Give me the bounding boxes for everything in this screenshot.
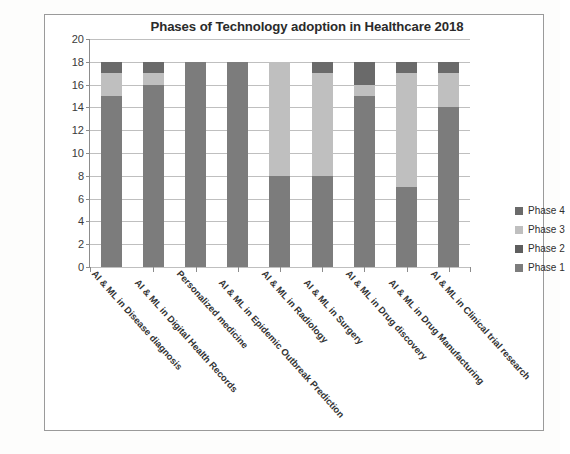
chart-frame: Phases of Technology adoption in Healthc… [44, 14, 544, 431]
legend-label: Phase 2 [528, 243, 565, 254]
bar-segment[interactable] [101, 62, 122, 73]
y-axis-tick-label: 16 [72, 79, 84, 91]
bar-segment[interactable] [438, 62, 459, 73]
legend-label: Phase 3 [528, 224, 565, 235]
legend-swatch-icon [515, 207, 523, 215]
y-axis-tick-label: 10 [72, 147, 84, 159]
legend-item[interactable]: Phase 2 [515, 239, 570, 258]
stacked-bar[interactable] [101, 62, 122, 267]
bar-segment[interactable] [101, 73, 122, 96]
bar-segment[interactable] [269, 176, 290, 267]
bar-segment[interactable] [312, 176, 333, 267]
stacked-bar[interactable] [354, 62, 375, 267]
bar-segment[interactable] [312, 62, 333, 73]
legend-label: Phase 1 [528, 262, 565, 273]
bar-segment[interactable] [354, 62, 375, 85]
legend-swatch-icon [515, 264, 523, 272]
x-axis-tick-mark [470, 267, 471, 272]
bar-slot[interactable] [301, 39, 343, 267]
bar-slot[interactable] [90, 39, 132, 267]
stacked-bar[interactable] [143, 62, 164, 267]
bar-segment[interactable] [143, 62, 164, 73]
bar-segment[interactable] [396, 187, 417, 267]
bar-slot[interactable] [259, 39, 301, 267]
stacked-bar[interactable] [227, 62, 248, 267]
bar-segment[interactable] [396, 73, 417, 187]
x-axis-category-labels: AI & ML in Disease diagnosisAI & ML in D… [89, 268, 470, 443]
stacked-bar[interactable] [269, 62, 290, 267]
legend-item[interactable]: Phase 4 [515, 201, 570, 220]
y-axis-tick-label: 0 [78, 261, 84, 273]
bar-segment[interactable] [312, 73, 333, 176]
plot-area: 20181614121086420 [89, 39, 470, 268]
bar-segment[interactable] [354, 96, 375, 267]
chart-title: Phases of Technology adoption in Healthc… [107, 19, 507, 34]
legend-swatch-icon [515, 245, 523, 253]
bar-segment[interactable] [269, 62, 290, 176]
x-axis-tick-mark [407, 267, 408, 272]
y-axis-tick-label: 8 [78, 170, 84, 182]
bar-slot[interactable] [343, 39, 385, 267]
x-axis-tick-mark [322, 267, 323, 272]
bar-segment[interactable] [396, 62, 417, 73]
y-axis-tick-label: 12 [72, 124, 84, 136]
legend-label: Phase 4 [528, 205, 565, 216]
bar-segment[interactable] [143, 73, 164, 84]
x-axis-tick-mark [449, 267, 450, 272]
y-axis-tick-label: 4 [78, 215, 84, 227]
bar-segment[interactable] [101, 96, 122, 267]
bar-segment[interactable] [227, 62, 248, 267]
bar-segment[interactable] [143, 85, 164, 267]
x-axis-tick-mark [364, 267, 365, 272]
x-axis-tick-mark [238, 267, 239, 272]
stacked-bar[interactable] [185, 62, 206, 267]
legend-item[interactable]: Phase 1 [515, 258, 570, 277]
x-axis-tick-mark [196, 267, 197, 272]
x-axis-tick-mark [280, 267, 281, 272]
bar-segment[interactable] [438, 107, 459, 267]
stacked-bar[interactable] [396, 62, 417, 267]
bar-slot[interactable] [428, 39, 470, 267]
x-axis-category-label: AI & ML in Clinical trial research [429, 268, 533, 382]
bar-slot[interactable] [386, 39, 428, 267]
x-axis-tick-mark [153, 267, 154, 272]
chart-legend: Phase 4Phase 3Phase 2Phase 1 [515, 201, 570, 277]
stacked-bar[interactable] [438, 62, 459, 267]
bar-slot[interactable] [217, 39, 259, 267]
bar-slot[interactable] [132, 39, 174, 267]
legend-item[interactable]: Phase 3 [515, 220, 570, 239]
bar-segment[interactable] [438, 73, 459, 107]
legend-swatch-icon [515, 226, 523, 234]
y-axis-tick-label: 14 [72, 101, 84, 113]
bar-segment[interactable] [185, 62, 206, 267]
y-axis-tick-label: 2 [78, 238, 84, 250]
bar-segment[interactable] [354, 85, 375, 96]
bar-series-group [90, 39, 470, 267]
bar-slot[interactable] [174, 39, 216, 267]
y-axis-tick-label: 20 [72, 33, 84, 45]
y-axis-tick-label: 6 [78, 193, 84, 205]
y-axis-tick-label: 18 [72, 56, 84, 68]
stacked-bar[interactable] [312, 62, 333, 267]
x-axis-tick-mark [90, 267, 91, 272]
